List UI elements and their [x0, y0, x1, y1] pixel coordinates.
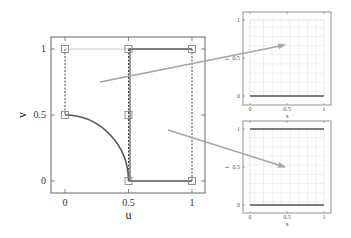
tr-xlabel: s	[286, 112, 289, 120]
main-xlabel: u	[126, 208, 132, 222]
bottom-right-plot: 0 0.5 1 0 0.5 1 s t	[223, 121, 331, 228]
br-ytick-0.5: 0.5	[233, 164, 241, 170]
main-ytick-0.5: 0.5	[34, 109, 47, 120]
tr-ytick-0: 0	[237, 93, 240, 99]
tr-ylabel: t	[223, 58, 231, 60]
diagram-canvas: 0 0.5 1 0 0.5 1 u v	[0, 0, 351, 238]
bottom-right-grid	[250, 129, 324, 205]
tr-xtick-0: 0	[249, 106, 252, 112]
br-xtick-1: 1	[323, 214, 326, 220]
top-right-plot: 0 0.5 1 0 0.5 1 s t	[223, 12, 331, 120]
main-ytick-1: 1	[41, 43, 46, 54]
control-polygon	[65, 49, 192, 181]
br-ylabel: t	[223, 166, 231, 168]
br-ytick-0: 0	[237, 202, 240, 208]
br-xtick-0: 0	[249, 214, 252, 220]
main-xtick-1: 1	[190, 197, 195, 208]
main-ylabel: v	[15, 112, 29, 118]
main-xtick-0.5: 0.5	[122, 197, 135, 208]
top-right-grid	[250, 20, 324, 96]
tr-xtick-1: 1	[323, 106, 326, 112]
tr-ytick-1: 1	[237, 17, 240, 23]
br-xlabel: s	[286, 220, 289, 228]
main-ytick-0: 0	[41, 175, 46, 186]
quarter-circle-curve	[65, 115, 129, 181]
main-plot: 0 0.5 1 0 0.5 1 u v	[15, 37, 205, 222]
main-xtick-0: 0	[63, 197, 68, 208]
br-ytick-1: 1	[237, 126, 240, 132]
